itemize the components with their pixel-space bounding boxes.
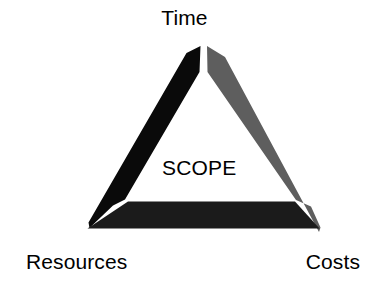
vertex-label-costs: Costs [306, 251, 360, 272]
center-label-scope: SCOPE [162, 157, 237, 178]
diagram-canvas: Time Resources Costs SCOPE [0, 0, 369, 288]
vertex-label-resources: Resources [26, 251, 127, 272]
vertex-label-time: Time [0, 7, 369, 28]
triangle-side-bottom [88, 202, 320, 229]
triple-constraint-triangle [0, 0, 369, 288]
canvas-background [0, 0, 369, 288]
